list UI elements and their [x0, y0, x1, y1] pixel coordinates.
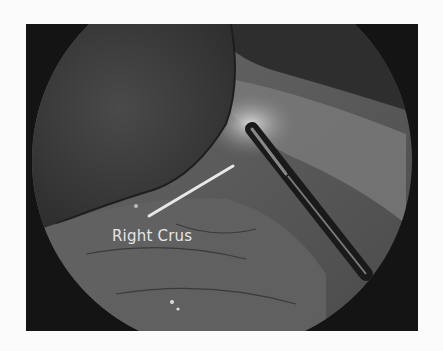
endoscopic-image-frame: Right Crus [26, 24, 418, 331]
surgical-scene [26, 24, 418, 331]
right-crus-label: Right Crus [112, 227, 192, 245]
